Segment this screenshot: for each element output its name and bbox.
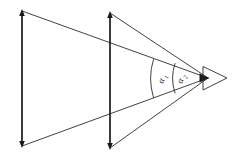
diagram-canvas: α 1 α 2 [0, 0, 233, 157]
angle-label-2-subscript: 2 [182, 75, 189, 80]
ray-diagram-figure: α 1 α 2 [0, 0, 233, 157]
lower-outer-ray [22, 78, 208, 146]
angle-label-1-subscript: 1 [163, 75, 170, 80]
left-aperture-arrowhead-bottom [19, 141, 25, 148]
angle-label-1: α 1 [156, 72, 170, 85]
angle-arc-2 [173, 64, 176, 94]
lower-inner-ray [110, 78, 208, 148]
angle-arc-1 [151, 60, 154, 98]
upper-outer-ray [22, 11, 208, 78]
left-aperture-arrowhead-top [19, 9, 25, 16]
angle-label-2: α 2 [175, 72, 189, 85]
left-aperture [19, 9, 25, 148]
upper-inner-ray [110, 13, 208, 78]
middle-aperture [107, 11, 113, 150]
